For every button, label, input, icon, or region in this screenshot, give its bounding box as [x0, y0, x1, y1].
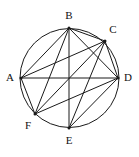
vertex-label-f: F — [25, 119, 31, 131]
vertex-label-b: B — [65, 9, 72, 21]
vertex-point-a — [20, 77, 23, 80]
chord-cd — [105, 41, 118, 78]
vertex-point-e — [68, 127, 71, 130]
vertex-point-f — [34, 113, 37, 116]
geometry-canvas: ABCDEF — [0, 0, 139, 157]
vertex-label-e: E — [66, 134, 73, 146]
vertex-label-a: A — [6, 71, 14, 83]
vertex-label-c: C — [109, 23, 116, 35]
vertex-point-b — [68, 27, 71, 30]
vertex-point-d — [117, 77, 120, 80]
geometry-figure: ABCDEF — [0, 0, 139, 157]
chord-de — [69, 78, 118, 128]
vertex-label-d: D — [124, 71, 132, 83]
vertex-point-c — [104, 40, 107, 43]
